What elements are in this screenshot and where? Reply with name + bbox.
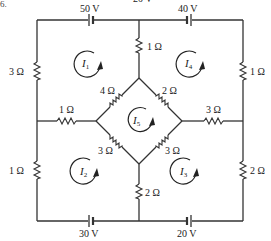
top-cut-label: 20 V: [133, 0, 153, 4]
loop-current-i3: I3: [170, 158, 199, 184]
resistor-left-bottom: [34, 161, 40, 179]
loop-i1-subscript: 1: [86, 63, 90, 71]
figure-number: 6.: [0, 0, 7, 9]
battery-20v-label: 20 V: [177, 228, 197, 239]
resistor-right-top: [240, 62, 246, 80]
svg-text:I3: I3: [179, 165, 188, 179]
resistor-center-top-label: 1 Ω: [147, 41, 162, 52]
resistor-center-bottom-label: 2 Ω: [145, 187, 160, 198]
resistor-center-bottom: [136, 184, 142, 199]
battery-30v: [89, 215, 93, 227]
resistor-diamond-upper-right-label: 2 Ω: [162, 85, 177, 96]
resistor-mid-left: [57, 118, 76, 124]
battery-50v-label: 50 V: [80, 3, 100, 14]
battery-40v: [187, 14, 191, 26]
resistor-left-top-label: 3 Ω: [9, 66, 24, 77]
resistor-diamond-lower-right-label: 3 Ω: [165, 145, 180, 156]
svg-text:I4: I4: [184, 57, 193, 71]
resistor-right-bottom-label: 2 Ω: [250, 165, 265, 176]
svg-text:I5: I5: [132, 114, 141, 128]
resistor-mid-left-label: 1 Ω: [59, 104, 74, 115]
svg-text:I2: I2: [79, 165, 88, 179]
resistor-mid-right: [204, 118, 223, 124]
battery-20v: [187, 215, 191, 227]
resistor-diamond-lower-left-label: 3 Ω: [98, 145, 113, 156]
loop-current-i2: I2: [70, 158, 99, 184]
svg-text:I1: I1: [81, 57, 90, 71]
resistor-diamond-upper-left-label: 4 Ω: [100, 85, 115, 96]
loop-current-i1: I1: [74, 51, 103, 77]
loop-i4-subscript: 4: [189, 63, 193, 71]
loop-current-i4: I4: [176, 51, 205, 77]
resistor-right-bottom: [240, 161, 246, 179]
battery-30v-label: 30 V: [79, 228, 99, 239]
resistor-center-top: [136, 38, 142, 53]
resistor-left-bottom-label: 1 Ω: [9, 165, 24, 176]
loop-current-i5: I5: [128, 108, 155, 132]
loop-i3-subscript: 3: [184, 171, 188, 179]
resistor-right-top-label: 1 Ω: [250, 66, 265, 77]
resistor-left-top: [34, 62, 40, 80]
resistor-diamond-lower-right: [139, 121, 182, 164]
loop-i2-subscript: 2: [84, 171, 88, 179]
battery-40v-label: 40 V: [178, 3, 198, 14]
battery-50v: [89, 14, 93, 26]
resistor-mid-right-label: 3 Ω: [206, 104, 221, 115]
resistor-diamond-lower-left: [96, 121, 139, 164]
loop-i5-subscript: 5: [137, 120, 141, 128]
circuit-diagram: 6. 20 V 50 V 40 V 30 V 20 V: [0, 0, 271, 241]
